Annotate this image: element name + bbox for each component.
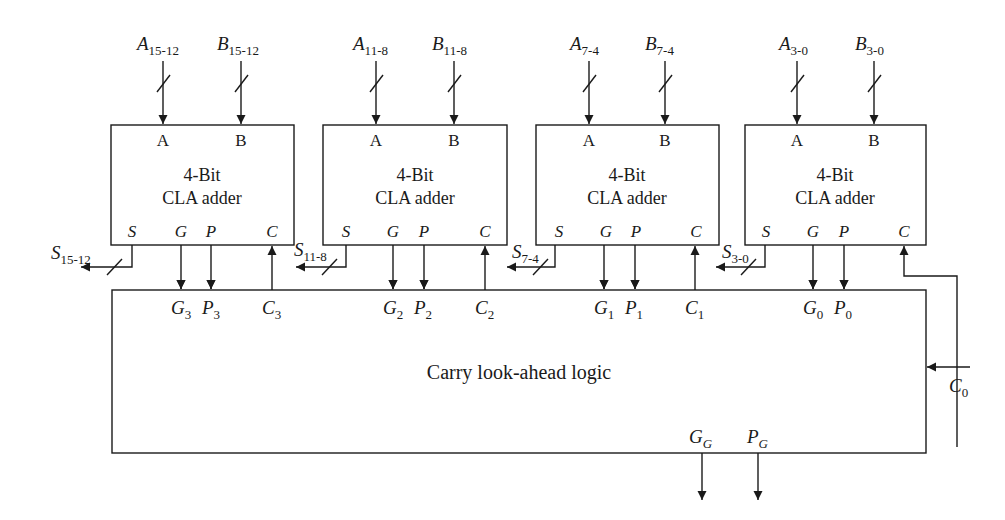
port-c-label: C xyxy=(898,222,910,241)
port-c-label: C xyxy=(690,222,702,241)
adder-block-15-12: A15-12 B15-12 A B 4-Bit CLA adder S G P … xyxy=(51,33,294,290)
input-b-label: B15-12 xyxy=(217,33,259,58)
c0-label: C0 xyxy=(949,375,968,400)
port-g-label: G xyxy=(387,222,399,241)
port-s-label: S xyxy=(762,222,771,241)
sum-output-label: S7-4 xyxy=(512,241,539,266)
port-a-label: A xyxy=(370,131,383,150)
port-g-label: G xyxy=(175,222,187,241)
adder-title-line2: CLA adder xyxy=(795,188,874,208)
cla-16bit-diagram: A15-12 B15-12 A B 4-Bit CLA adder S G P … xyxy=(0,0,1005,520)
input-b-label: B7-4 xyxy=(645,33,674,58)
port-s-label: S xyxy=(128,222,137,241)
port-a-label: A xyxy=(791,131,804,150)
sum-output-15-12: S15-12 xyxy=(51,242,132,275)
port-p-label: P xyxy=(205,222,216,241)
port-s-label: S xyxy=(342,222,351,241)
input-b-label: B11-8 xyxy=(432,33,467,58)
input-a-label: A11-8 xyxy=(351,33,388,58)
port-a-label: A xyxy=(583,131,596,150)
adder-block-7-4: A7-4 B7-4 A B 4-Bit CLA adder S G P C S7… xyxy=(507,33,719,290)
input-b-label: B3-0 xyxy=(855,33,884,58)
port-p-label: P xyxy=(838,222,849,241)
input-a-label: A3-0 xyxy=(777,33,808,58)
port-s-label: S xyxy=(555,222,564,241)
port-a-label: A xyxy=(157,131,170,150)
adder-title-line1: 4-Bit xyxy=(608,165,645,185)
port-c-label: C xyxy=(479,222,491,241)
adder-title-line1: 4-Bit xyxy=(396,165,433,185)
port-c-label: C xyxy=(266,222,278,241)
input-a-label: A7-4 xyxy=(568,33,599,58)
input-b-3-0: B3-0 xyxy=(855,33,884,124)
input-a-7-4: A7-4 xyxy=(568,33,599,124)
port-g-label: G xyxy=(807,222,819,241)
sum-output-7-4: S7-4 xyxy=(507,241,555,275)
port-b-label: B xyxy=(235,131,246,150)
sum-output-label: S11-8 xyxy=(294,239,327,264)
input-b-15-12: B15-12 xyxy=(217,33,259,124)
adder-title-line2: CLA adder xyxy=(375,188,454,208)
adder-title-line2: CLA adder xyxy=(162,188,241,208)
carry-lookahead-logic: G3 P3 C3 G2 P2 C2 G1 P1 C1 G0 P0 Carry l… xyxy=(112,280,970,500)
input-b-11-8: B11-8 xyxy=(432,33,467,124)
port-b-label: B xyxy=(659,131,670,150)
input-b-7-4: B7-4 xyxy=(645,33,674,124)
input-a-3-0: A3-0 xyxy=(777,33,808,124)
cla-logic-label: Carry look-ahead logic xyxy=(427,361,611,384)
port-b-label: B xyxy=(868,131,879,150)
port-g-label: G xyxy=(600,222,612,241)
port-p-label: P xyxy=(418,222,429,241)
adder-title-line1: 4-Bit xyxy=(816,165,853,185)
input-a-15-12: A15-12 xyxy=(135,33,179,124)
adder-block-11-8: A11-8 B11-8 A B 4-Bit CLA adder S G P C … xyxy=(294,33,507,290)
sum-output-3-0: S3-0 xyxy=(716,241,765,275)
adder-title-line2: CLA adder xyxy=(587,188,666,208)
sum-output-label: S15-12 xyxy=(51,242,91,267)
port-p-label: P xyxy=(630,222,641,241)
input-a-11-8: A11-8 xyxy=(351,33,388,124)
input-a-label: A15-12 xyxy=(135,33,179,58)
port-b-label: B xyxy=(448,131,459,150)
adder-title-line1: 4-Bit xyxy=(183,165,220,185)
